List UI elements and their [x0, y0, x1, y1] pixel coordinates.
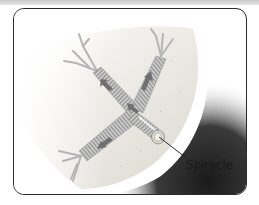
top-band — [0, 0, 259, 5]
spiracle — [152, 130, 165, 144]
spiracle-label: Spiracle — [186, 158, 233, 172]
diagram-frame: Spiracle — [13, 8, 247, 195]
